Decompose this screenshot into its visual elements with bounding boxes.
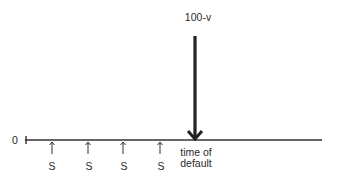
default-payment-arrow <box>188 36 202 139</box>
payment-label-4: S <box>157 161 164 172</box>
time-of-default-label-line2: default <box>180 158 212 169</box>
default-amount-label: 100-v <box>185 12 211 23</box>
payment-arrow-3 <box>121 142 126 154</box>
payment-label-3: S <box>120 161 127 172</box>
payment-label-2: S <box>85 161 92 172</box>
payment-arrow-1 <box>50 142 55 154</box>
payment-label-1: S <box>48 161 55 172</box>
payment-arrow-4 <box>158 142 163 154</box>
payment-arrow-2 <box>86 142 91 154</box>
timeline-diagram <box>0 0 337 184</box>
origin-label: 0 <box>12 135 18 146</box>
